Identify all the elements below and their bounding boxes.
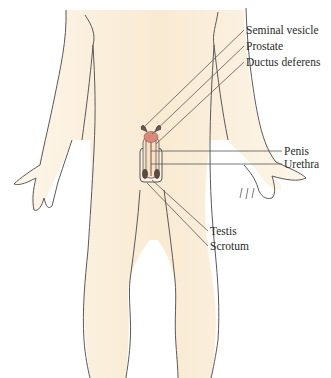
label-seminal-vesicle: Seminal vesicle [246, 24, 319, 36]
label-ductus-deferens: Ductus deferens [246, 56, 320, 68]
right-hand-fingers [240, 188, 254, 199]
testis-left-shape [142, 169, 148, 179]
label-prostate: Prostate [246, 40, 283, 52]
testis-right-shape [154, 169, 160, 179]
label-scrotum: Scrotum [210, 240, 249, 252]
label-urethra: Urethra [284, 158, 319, 170]
anatomy-diagram: Seminal vesicle Prostate Ductus deferens… [0, 0, 331, 378]
label-testis: Testis [210, 225, 237, 237]
label-penis: Penis [284, 145, 309, 157]
